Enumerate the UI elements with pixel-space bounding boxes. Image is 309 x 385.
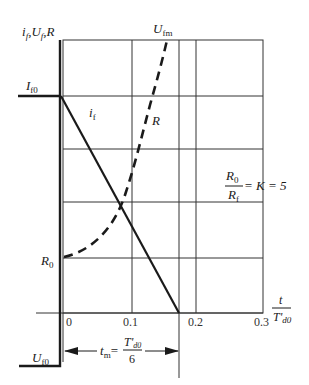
ufm-label: Ufm	[153, 21, 172, 38]
x-axis-label-numerator: t	[279, 293, 283, 307]
ratio-rhs: = K = 5	[244, 178, 287, 193]
r-curve-label: R	[151, 113, 160, 128]
ratio-annotation: R0 Rf = K = 5	[225, 168, 287, 204]
x-axis-label-denominator: T'd0	[273, 310, 292, 325]
y-axis-label: if,Uf,R	[22, 24, 55, 41]
x-tick-0.3: 0.3	[254, 315, 269, 329]
x-tick-0: 0	[66, 315, 72, 329]
r0-label: R0	[40, 253, 54, 270]
tm-arrow-left-head	[64, 347, 78, 355]
tm-numerator: T'd0	[124, 335, 141, 350]
deexcitation-diagram: if,Uf,R Ufm If0 if R R0 Uf0 R0 Rf = K = …	[0, 0, 309, 385]
step-lines	[18, 40, 61, 366]
tm-label: tm=	[100, 343, 118, 360]
x-axis-label: t T'd0	[272, 293, 292, 325]
x-tick-0.2: 0.2	[188, 315, 203, 329]
tm-arrow-right-head	[165, 347, 179, 355]
if0-label: If0	[25, 78, 38, 95]
ratio-denominator: Rf	[227, 187, 239, 204]
ratio-numerator: R0	[225, 168, 239, 185]
uf0-label: Uf0	[32, 350, 49, 367]
if-curve	[61, 96, 179, 313]
if-curve-label: if	[89, 105, 96, 122]
x-tick-0.1: 0.1	[123, 315, 138, 329]
tm-dimension: tm= T'd0 6	[64, 335, 179, 366]
tm-denominator: 6	[129, 352, 135, 366]
